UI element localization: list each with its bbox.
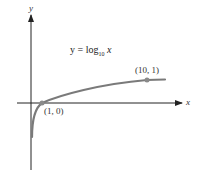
y-axis-label: y [29, 4, 33, 13]
equation-var: x [107, 44, 111, 55]
equation-prefix: y = log [70, 44, 98, 55]
equation-base: 10 [98, 51, 104, 57]
point-label-10-1: (10, 1) [135, 66, 159, 75]
point-10-1 [145, 78, 150, 83]
equation-label: y = log10 x [70, 45, 111, 57]
point-1-0 [40, 101, 45, 106]
log-graph [0, 0, 198, 173]
x-axis-label: x [186, 98, 190, 107]
point-label-1-0: (1, 0) [44, 107, 64, 116]
